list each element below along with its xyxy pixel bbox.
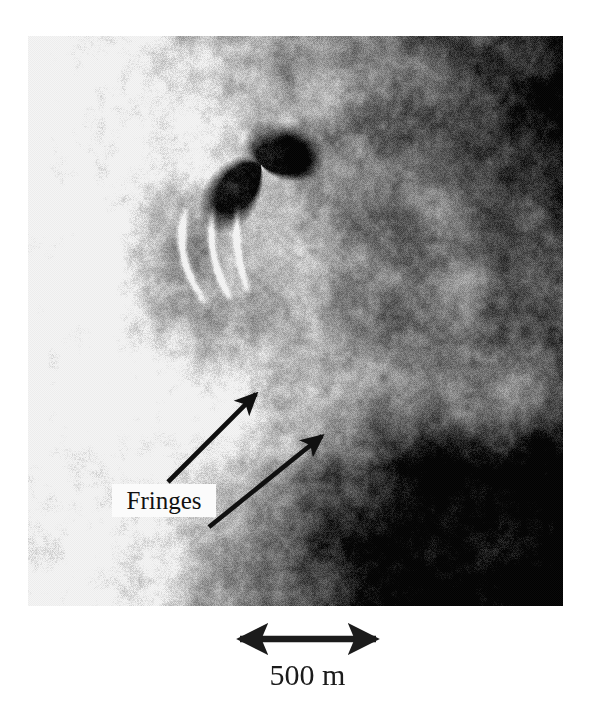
fringes-label-box: Fringes [112, 484, 216, 517]
figure-root: Fringes 500 m [0, 0, 590, 711]
fringes-label-text: Fringes [127, 488, 202, 513]
scale-bar: 500 m [200, 618, 415, 708]
radar-amplitude-image [28, 36, 563, 606]
sar-image-panel [28, 36, 563, 606]
scale-bar-label: 500 m [200, 658, 415, 692]
